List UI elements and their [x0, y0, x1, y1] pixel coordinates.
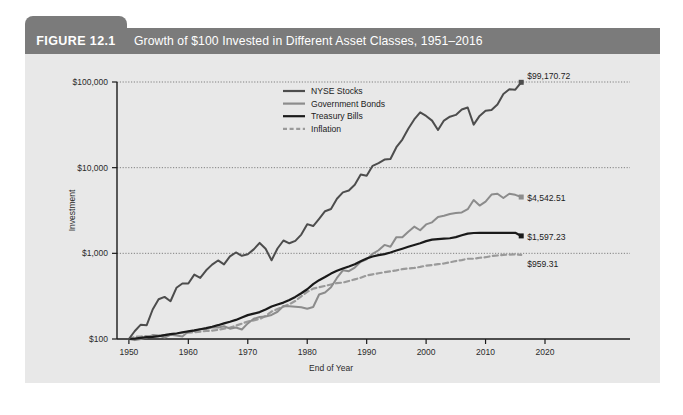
figure-title: Growth of $100 Invested in Different Ass…	[134, 28, 483, 54]
figure-number-label: FIGURE 12.1	[25, 28, 127, 54]
figure-panel	[25, 28, 660, 383]
